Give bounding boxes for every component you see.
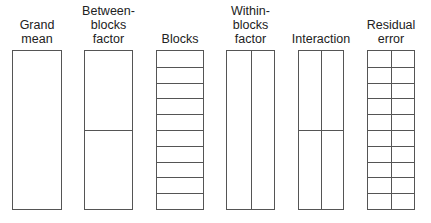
label-line: error [346, 32, 431, 46]
partition-box-within-blocks-factor [226, 50, 275, 210]
row-divider [157, 193, 203, 194]
label-line: Within- [206, 4, 296, 18]
partition-box-blocks [156, 50, 204, 210]
column-divider [251, 51, 252, 209]
row-divider [157, 67, 203, 68]
partition-box-interaction [298, 50, 344, 210]
partition-box-grand-mean [12, 50, 62, 210]
label-line: Between- [64, 4, 154, 18]
partition-box-between-blocks-factor [84, 50, 133, 210]
row-divider [157, 98, 203, 99]
column-divider [391, 51, 392, 209]
label-line: blocks [64, 18, 154, 32]
partition-box-residual-error [367, 50, 415, 210]
row-divider [157, 83, 203, 84]
column-label-residual-error: Residualerror [346, 18, 431, 46]
row-divider [157, 162, 203, 163]
label-line: blocks [206, 18, 296, 32]
row-divider [157, 114, 203, 115]
column-divider [321, 51, 322, 209]
row-divider [85, 130, 132, 131]
row-divider [157, 130, 203, 131]
row-divider [157, 177, 203, 178]
label-line: Residual [346, 18, 431, 32]
row-divider [157, 146, 203, 147]
